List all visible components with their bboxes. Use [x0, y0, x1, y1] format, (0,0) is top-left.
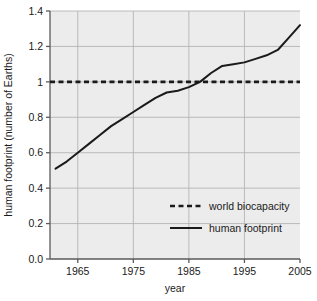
footprint-line-chart: 0.00.20.40.60.811.21.4 19651975198519952…	[0, 0, 317, 301]
y-axis-title: human footprint (number of Earths)	[2, 53, 14, 216]
x-tick-label: 1975	[122, 265, 146, 277]
y-axis-tick-labels: 0.00.20.40.60.811.21.4	[28, 5, 43, 265]
y-tick-label: 0.6	[28, 146, 43, 158]
x-tick-label: 1985	[177, 265, 201, 277]
x-tick-label: 1965	[66, 265, 90, 277]
y-tick-label: 0.4	[28, 182, 43, 194]
y-tick-label: 0.2	[28, 217, 43, 229]
y-tick-label: 1.2	[28, 40, 43, 52]
y-tick-label: 1.4	[28, 5, 43, 17]
y-tick-label: 1	[37, 76, 43, 88]
y-tick-label: 0.8	[28, 111, 43, 123]
chart-figure: 0.00.20.40.60.811.21.4 19651975198519952…	[0, 0, 317, 301]
y-tick-label: 0.0	[28, 253, 43, 265]
legend-label-human-footprint: human footprint	[209, 222, 282, 234]
legend-label-world-biocapacity: world biocapacity	[208, 200, 290, 212]
x-tick-label: 2005	[288, 265, 312, 277]
x-axis-title: year	[165, 282, 186, 294]
x-axis-tick-labels: 19651975198519952005	[66, 265, 312, 277]
x-tick-label: 1995	[233, 265, 257, 277]
